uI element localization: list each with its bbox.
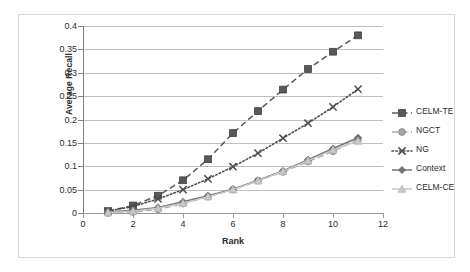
legend-label: Context [416,163,445,173]
y-axis-tick-label: 0.15 [59,138,77,148]
y-axis-tick-mark [78,96,83,97]
y-axis-tick-label: 0.2 [64,115,77,125]
y-axis-tick-mark [78,26,83,27]
x-axis-tick-mark [183,213,184,218]
y-axis-tick-label: 0.25 [59,91,77,101]
legend-item-ng[interactable]: NG [391,139,455,158]
x-axis-tick-label: 0 [80,219,85,229]
x-axis-tick-mark [233,213,234,218]
legend-label: CELM-CE [416,182,454,192]
legend-swatch-icon [391,162,413,174]
x-axis-tick-label: 4 [180,219,185,229]
y-axis-tick-mark [78,120,83,121]
y-axis-tick-label: 0.1 [64,161,77,171]
legend-item-ngct[interactable]: NGCT [391,120,455,139]
y-axis-tick-mark [78,73,83,74]
legend-item-context[interactable]: Context [391,158,455,177]
x-axis-tick-label: 6 [230,219,235,229]
x-axis-tick-mark [333,213,334,218]
y-axis-tick-label: 0.35 [59,44,77,54]
y-axis-tick-label: 0.05 [59,185,77,195]
legend-swatch-icon [391,143,413,155]
x-axis-tick-mark [383,213,384,218]
x-axis-tick-label: 10 [328,219,338,229]
series-ngct [105,136,362,216]
x-axis-tick-mark [83,213,84,218]
legend-swatch-icon [391,181,413,193]
legend-label: CELM-TE [416,106,453,116]
x-axis-tick-label: 8 [280,219,285,229]
legend-swatch-icon [391,105,413,117]
y-axis-tick-mark [78,190,83,191]
y-axis-tick-label: 0.4 [64,21,77,31]
legend-item-celm-te[interactable]: CELM-TE [391,101,455,120]
x-axis-tick-mark [283,213,284,218]
x-axis-title: Rank [83,236,383,246]
y-axis-tick-label: 0.3 [64,68,77,78]
legend-swatch-icon [391,124,413,136]
y-axis-tick-label: 0 [72,208,77,218]
legend-label: NG [416,144,429,154]
y-axis-tick-mark [78,166,83,167]
plot-wrapper: Average Recall 00.050.10.150.20.250.30.3… [19,15,456,259]
x-axis-tick-label: 2 [130,219,135,229]
x-axis-tick-label: 12 [378,219,388,229]
legend-item-celm-ce[interactable]: CELM-CE [391,177,455,196]
y-axis-tick-mark [78,49,83,50]
chart-figure: Average Recall 00.050.10.150.20.250.30.3… [0,0,470,272]
x-axis-tick-mark [133,213,134,218]
series-ng [104,86,361,215]
chart-legend: CELM-TENGCTNGContextCELM-CE [391,101,455,196]
x-axis-tick-labels: 024681012 [19,219,456,233]
legend-label: NGCT [416,125,440,135]
series-layer [83,26,383,213]
y-axis-tick-mark [78,143,83,144]
chart-frame: Average Recall 00.050.10.150.20.250.30.3… [18,14,455,258]
